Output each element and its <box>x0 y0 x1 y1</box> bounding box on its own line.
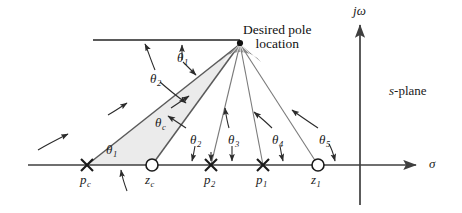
leader-theta1-left <box>145 44 155 70</box>
pz-symbol: p <box>204 172 211 187</box>
leader-theta4-up <box>254 112 272 128</box>
sigma-axis-label: σ <box>429 157 435 170</box>
pz-subscript: c <box>87 179 91 189</box>
theta-1-top-label: θ1 <box>177 51 188 64</box>
leader-theta2-bottom-down <box>192 146 195 161</box>
theta-2-top-label: θ2 <box>150 72 161 85</box>
pole-p1-label: p1 <box>256 173 267 186</box>
figure-canvas <box>0 0 462 213</box>
pz-symbol: z <box>311 172 316 187</box>
theta-symbol: θ <box>228 132 234 147</box>
leader-theta1-bottom <box>38 134 68 150</box>
desired-pole-caption-line1: Desired pole <box>243 23 312 37</box>
pz-symbol: z <box>145 172 150 187</box>
pz-symbol: p <box>256 172 263 187</box>
pz-symbol: p <box>80 172 87 187</box>
theta-c-label: θc <box>155 116 165 129</box>
desired-pole-caption: Desired pole location <box>243 23 312 50</box>
theta-subscript: 5 <box>326 139 330 149</box>
theta-symbol: θ <box>177 50 183 65</box>
root-locus-figure: Desired pole location s-plane σ jω θ1 θ2… <box>0 0 462 213</box>
theta-subscript: 2 <box>157 78 161 88</box>
theta-subscript: 1 <box>184 57 188 67</box>
theta-symbol: θ <box>155 115 161 130</box>
pz-subscript: 2 <box>211 179 215 189</box>
zero-marker-zc <box>146 159 158 171</box>
theta-1-bottom-label: θ1 <box>106 143 117 156</box>
omega-symbol: ω <box>357 3 366 18</box>
leader-theta3-up <box>225 108 229 128</box>
pz-subscript: 1 <box>317 179 321 189</box>
theta-4-label: θ4 <box>272 133 283 146</box>
theta-subscript: 1 <box>113 149 117 159</box>
jomega-axis-label: jω <box>353 4 366 17</box>
theta-subscript: 3 <box>235 139 239 149</box>
theta-symbol: θ <box>190 132 196 147</box>
theta-symbol: θ <box>106 142 112 157</box>
s-plane-label: s-plane <box>389 84 427 97</box>
theta-symbol: θ <box>272 132 278 147</box>
theta-2-bottom-label: θ2 <box>190 133 201 146</box>
theta-subscript: c <box>162 122 166 132</box>
desired-pole-caption-line2: location <box>243 37 312 51</box>
theta-subscript: 2 <box>197 139 201 149</box>
pz-subscript: c <box>151 179 155 189</box>
leader-thetac-left <box>108 103 127 115</box>
theta-subscript: 4 <box>279 139 283 149</box>
theta-symbol: θ <box>319 132 325 147</box>
pz-subscript: 1 <box>263 179 267 189</box>
s-plane-suffix: -plane <box>394 83 426 98</box>
theta-symbol: θ <box>150 71 156 86</box>
zero-z1-label: z1 <box>311 173 320 186</box>
zero-marker-z1 <box>312 159 324 171</box>
leader-theta5-up <box>292 110 318 128</box>
zero-zc-label: zc <box>145 173 154 186</box>
pole-p2-label: p2 <box>204 173 215 186</box>
pole-pc-label: pc <box>80 173 90 186</box>
leader-zc-up-arrow <box>121 170 127 191</box>
theta-5-label: θ5 <box>319 133 330 146</box>
theta-3-label: θ3 <box>228 133 239 146</box>
